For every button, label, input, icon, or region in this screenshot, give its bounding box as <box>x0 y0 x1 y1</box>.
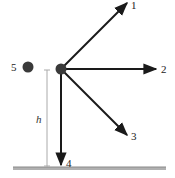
arrow-3 <box>61 69 127 135</box>
label-height: h <box>36 113 42 125</box>
ground <box>13 167 166 170</box>
ball-5 <box>23 62 34 73</box>
label-arrow-2: 2 <box>161 63 167 75</box>
label-ball-5: 5 <box>11 61 17 73</box>
label-arrow-3: 3 <box>131 130 137 142</box>
arrow-1 <box>61 3 127 69</box>
launch-ball <box>56 64 67 75</box>
label-arrow-1: 1 <box>131 0 137 11</box>
height-marker <box>44 70 50 167</box>
diagram-canvas: 1 2 3 4 5 h <box>0 0 175 178</box>
projectile-diagram: 1 2 3 4 5 h <box>0 0 175 178</box>
label-arrow-4: 4 <box>66 157 72 169</box>
